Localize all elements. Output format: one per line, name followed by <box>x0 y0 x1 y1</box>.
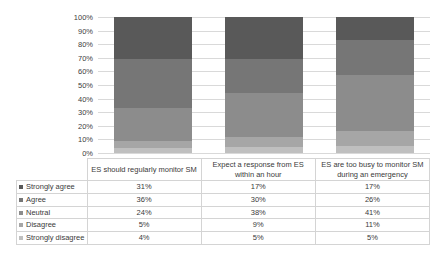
y-tick-20: 20% <box>78 123 93 131</box>
table-value-cell: 17% <box>201 181 315 194</box>
y-tick-40: 40% <box>78 96 93 104</box>
table-header-row: ES should regularly monitor SMExpect a r… <box>17 159 430 181</box>
legend-entry[interactable]: Strongly disagree <box>17 232 88 245</box>
table-body: ES should regularly monitor SMExpect a r… <box>17 159 430 245</box>
table-row: Neutral24%38%41% <box>17 206 430 219</box>
table-value-cell: 26% <box>315 193 429 206</box>
bar-segment <box>336 131 414 146</box>
legend-swatch-icon <box>19 223 23 227</box>
table-value-cell: 5% <box>87 219 201 232</box>
y-tick-70: 70% <box>78 55 93 63</box>
plot-area <box>98 17 430 153</box>
legend-entry[interactable]: Strongly agree <box>17 181 88 194</box>
table-value-cell: 24% <box>87 206 201 219</box>
bar-segment <box>225 93 303 137</box>
table-value-cell: 17% <box>315 181 429 194</box>
legend-swatch-icon <box>19 185 23 189</box>
bar-segment <box>336 75 414 131</box>
table-value-cell: 38% <box>201 206 315 219</box>
legend-label: Disagree <box>26 221 56 230</box>
table-row: Agree36%30%26% <box>17 193 430 206</box>
legend-swatch-icon <box>19 236 23 240</box>
bars-layer <box>98 17 430 153</box>
bar-segment <box>336 17 414 40</box>
bar-segment <box>225 137 303 147</box>
legend-label: Neutral <box>26 208 50 217</box>
table-row: Disagree5%9%11% <box>17 219 430 232</box>
bar-segment <box>336 146 414 153</box>
y-tick-50: 50% <box>78 82 93 90</box>
bar-segment <box>114 141 192 148</box>
category-header: Expect a response from ES within an hour <box>201 159 315 181</box>
bar-column <box>225 17 303 153</box>
legend-label: Strongly disagree <box>26 233 84 242</box>
bar-segment <box>225 17 303 59</box>
y-tick-80: 80% <box>78 41 93 49</box>
bar-segment <box>114 17 192 59</box>
bar-segment <box>336 40 414 75</box>
table-corner-cell <box>17 159 88 181</box>
table-value-cell: 31% <box>87 181 201 194</box>
table-value-cell: 11% <box>315 219 429 232</box>
legend-swatch-icon <box>19 198 23 202</box>
y-tick-100: 100% <box>74 14 93 22</box>
y-axis: 100% 90% 80% 70% 60% 50% 40% 30% 20% 10%… <box>52 14 97 153</box>
bar-segment <box>114 148 192 153</box>
legend-entry[interactable]: Disagree <box>17 219 88 232</box>
y-tick-30: 30% <box>78 109 93 117</box>
table-value-cell: 5% <box>201 232 315 245</box>
y-tick-10: 10% <box>78 136 93 144</box>
legend-swatch-icon <box>19 211 23 215</box>
bar-segment <box>114 108 192 141</box>
y-tick-60: 60% <box>78 68 93 76</box>
table-value-cell: 36% <box>87 193 201 206</box>
legend-label: Strongly agree <box>26 182 75 191</box>
table-value-cell: 9% <box>201 219 315 232</box>
table-value-cell: 5% <box>315 232 429 245</box>
stacked-bar-chart: 100% 90% 80% 70% 60% 50% 40% 30% 20% 10%… <box>0 0 439 255</box>
bar-column <box>114 17 192 153</box>
legend-label: Agree <box>26 195 46 204</box>
table-row: Strongly agree31%17%17% <box>17 181 430 194</box>
table-row: Strongly disagree4%5%5% <box>17 232 430 245</box>
category-header: ES should regularly monitor SM <box>87 159 201 181</box>
gridline-0 <box>98 153 430 154</box>
y-tick-0: 0% <box>82 150 93 158</box>
category-header: ES are too busy to monitor SM during an … <box>315 159 429 181</box>
table-value-cell: 41% <box>315 206 429 219</box>
bar-segment <box>225 59 303 94</box>
bar-column <box>336 17 414 153</box>
legend-entry[interactable]: Neutral <box>17 206 88 219</box>
plot-block: 100% 90% 80% 70% 60% 50% 40% 30% 20% 10%… <box>0 0 439 160</box>
y-tick-90: 90% <box>78 28 93 36</box>
bar-segment <box>114 59 192 108</box>
table-value-cell: 30% <box>201 193 315 206</box>
bar-segment <box>225 147 303 153</box>
table-value-cell: 4% <box>87 232 201 245</box>
legend-entry[interactable]: Agree <box>17 193 88 206</box>
chart-data-table: ES should regularly monitor SMExpect a r… <box>16 158 430 245</box>
